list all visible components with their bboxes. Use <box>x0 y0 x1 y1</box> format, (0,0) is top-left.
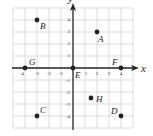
y-axis-label: y <box>67 0 73 4</box>
svg-text:1: 1 <box>68 53 71 58</box>
svg-text:A: A <box>97 34 104 44</box>
svg-text:3: 3 <box>108 71 111 76</box>
coordinate-plane: x y -4 -3 -2 -1 1 2 3 4 4 3 2 1 -1 -2 -3… <box>0 0 153 136</box>
svg-text:4: 4 <box>120 71 123 76</box>
x-axis-label: x <box>140 62 146 74</box>
svg-text:-1: -1 <box>66 78 71 83</box>
svg-text:2: 2 <box>68 41 71 46</box>
svg-text:-2: -2 <box>47 71 52 76</box>
svg-text:D: D <box>110 106 118 116</box>
svg-text:G: G <box>29 57 36 67</box>
svg-text:-3: -3 <box>66 102 71 107</box>
svg-text:1: 1 <box>85 71 88 76</box>
svg-text:3: 3 <box>68 29 71 34</box>
svg-text:F: F <box>111 57 118 67</box>
svg-text:E: E <box>74 70 81 80</box>
svg-text:C: C <box>40 105 47 115</box>
svg-text:-4: -4 <box>66 114 71 119</box>
svg-text:2: 2 <box>96 71 99 76</box>
svg-text:H: H <box>95 94 103 104</box>
svg-text:-3: -3 <box>35 71 40 76</box>
svg-text:-4: -4 <box>20 71 25 76</box>
x-tick-labels: -4 -3 -2 -1 1 2 3 4 <box>20 71 123 76</box>
svg-text:-1: -1 <box>59 71 64 76</box>
svg-text:4: 4 <box>68 17 71 22</box>
point-h: H <box>89 94 103 104</box>
svg-text:B: B <box>40 21 46 31</box>
svg-text:-2: -2 <box>66 90 71 95</box>
